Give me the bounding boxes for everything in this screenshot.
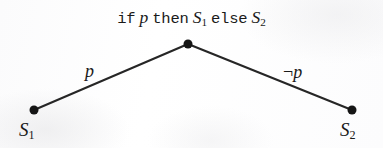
if-then-else-tree-figure: ifpthenS1elseS2 p ¬p S1 S2 — [0, 0, 383, 148]
decision-node — [184, 40, 193, 49]
leaf-label-s1-base: S — [19, 119, 29, 140]
leaf-node-s1 — [30, 106, 39, 115]
edge-label-not-p: ¬p — [283, 63, 302, 81]
leaf-label-s2-subscript: 2 — [350, 128, 356, 142]
edge-root-to-s2 — [188, 44, 352, 110]
tree-graphics — [0, 0, 383, 148]
leaf-label-s2-base: S — [340, 119, 350, 140]
leaf-label-s1: S1 — [19, 120, 35, 139]
negation-icon: ¬ — [283, 62, 293, 82]
edge-label-variable: p — [293, 62, 302, 82]
leaf-label-s2: S2 — [340, 120, 356, 139]
edge-label-p: p — [85, 62, 94, 80]
edge-root-to-s1 — [34, 44, 188, 110]
leaf-node-s2 — [348, 106, 357, 115]
leaf-label-s1-subscript: 1 — [29, 128, 35, 142]
